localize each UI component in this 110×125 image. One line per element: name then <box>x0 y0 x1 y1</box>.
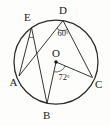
geometry-diagram: A B C D E O 60° 72° <box>0 0 110 125</box>
degree-symbol-o: ° <box>67 75 70 81</box>
center-point-dot <box>54 60 57 63</box>
vertex-label-e: E <box>24 11 31 23</box>
radius-ob <box>47 62 56 104</box>
vertex-label-o: O <box>52 47 60 59</box>
geometry-figure: A B C D E O 60° 72° <box>0 0 110 125</box>
vertex-label-a: A <box>10 76 18 88</box>
chord-eb <box>32 28 48 104</box>
vertex-label-d: D <box>59 4 67 16</box>
vertex-label-c: C <box>95 78 102 90</box>
angle-value-d: 60 <box>58 28 67 38</box>
vertex-label-b: B <box>43 109 50 121</box>
angle-measure-at-o: 72° <box>59 72 71 82</box>
chord-dc <box>63 21 93 78</box>
angle-value-o: 72 <box>59 72 68 82</box>
